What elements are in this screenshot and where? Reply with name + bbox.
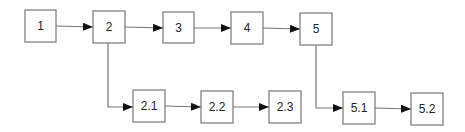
node-label: 2.1	[141, 99, 158, 113]
node-4: 4	[231, 12, 263, 44]
node-label: 1	[37, 19, 44, 33]
edge-5.1-to-5.2	[375, 108, 411, 109]
edge-1-to-2	[56, 26, 93, 27]
node-5-1: 5.1	[343, 92, 375, 124]
node-label: 4	[244, 21, 251, 35]
node-label: 5.1	[351, 101, 368, 115]
node-3: 3	[163, 12, 194, 43]
edge-2-to-3	[125, 27, 163, 28]
node-2-1: 2.1	[133, 90, 165, 122]
node-label: 5	[313, 22, 320, 36]
node-label: 5.2	[419, 102, 436, 116]
edge-2.1-to-2.2	[165, 106, 201, 107]
edge-5-to-5.1	[316, 45, 343, 108]
node-2-3: 2.3	[269, 91, 301, 123]
node-label: 2.2	[209, 100, 226, 114]
node-label: 2	[106, 20, 113, 34]
node-1: 1	[25, 10, 56, 42]
node-5: 5	[300, 13, 332, 45]
node-label: 2.3	[277, 100, 294, 114]
node-label: 3	[175, 21, 182, 35]
node-2: 2	[93, 11, 125, 43]
flowchart-canvas: 1 2 3 4 5 2.1 2.2 2.3	[0, 0, 465, 132]
edge-4-to-5	[263, 28, 300, 29]
node-5-2: 5.2	[411, 93, 443, 125]
node-2-2: 2.2	[201, 91, 233, 123]
edge-2-to-2.1	[108, 43, 133, 107]
